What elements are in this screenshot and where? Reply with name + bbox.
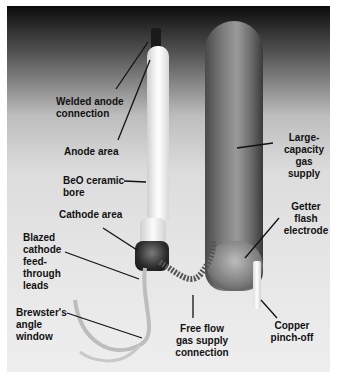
- label-anode-area: Anode area: [64, 146, 118, 158]
- label-gas-supply-connection: Free flow gas supply connection: [170, 323, 234, 359]
- label-getter-flash-electrode: Getter flash electrode: [280, 201, 332, 237]
- label-welded-anode-connection: Welded anode connection: [56, 96, 124, 120]
- label-brewsters-angle-window: Brewster's angle window: [16, 307, 67, 343]
- label-blazed-cathode-leads: Blazed cathode feed- through leads: [23, 232, 61, 292]
- label-cathode-area: Cathode area: [59, 209, 122, 221]
- label-large-capacity-gas-supply: Large- capacity gas supply: [278, 132, 330, 180]
- label-beo-ceramic-bore: BeO ceramic bore: [63, 175, 124, 199]
- label-copper-pinch-off: Copper pinch-off: [262, 320, 322, 344]
